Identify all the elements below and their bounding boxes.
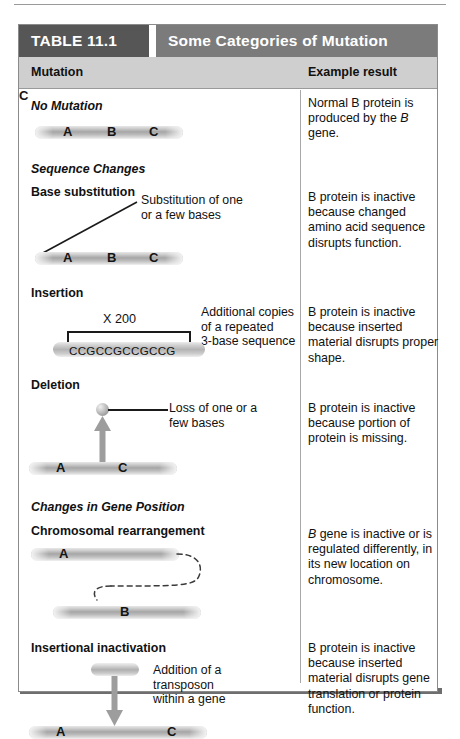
title-divider [149, 25, 156, 57]
gene-bar-top [31, 548, 179, 561]
rearrangement-dashed-path [169, 546, 249, 612]
annotation-substitution-line1: Substitution of one [141, 193, 291, 208]
gene-label-b: B [107, 124, 116, 139]
repeat-span-bracket [67, 331, 191, 342]
gene-label-a: A [59, 546, 68, 561]
result-line-1: Normal B protein is [308, 96, 413, 110]
annotation-transposon: Addition of a transposon within a gene [153, 663, 293, 707]
annotation-transposon-line3: within a gene [153, 692, 293, 707]
column-header-mutation: Mutation [31, 65, 83, 79]
subheading-insertional-inactivation: Insertional inactivation [31, 641, 166, 655]
repeat-multiplier-label: X 200 [103, 312, 136, 326]
gene-label-b: B [120, 604, 129, 619]
mutation-table-card: TABLE 11.1 Some Categories of Mutation M… [18, 24, 438, 692]
result-line-2: produced by the [308, 111, 400, 125]
gene-label-a: A [56, 460, 65, 475]
gene-label-c: C [149, 124, 158, 139]
gene-label-b: B [107, 250, 116, 265]
section-no-mutation: No Mutation [31, 99, 103, 113]
page-top-rule [14, 4, 446, 5]
gene-label-c: C [149, 250, 158, 265]
gene-label-c: C [19, 88, 28, 103]
result-insertional-inactivation: B protein is inactive because inserted m… [308, 641, 439, 717]
transposon-capsule [91, 663, 139, 676]
result-base-substitution: B protein is inactive because changed am… [308, 190, 439, 251]
deletion-arrow-icon [91, 416, 115, 462]
gene-label-a: A [56, 724, 65, 739]
result-insertion: B protein is inactive because inserted m… [308, 305, 439, 366]
result-gene-italic: B [400, 111, 408, 125]
annotation-insertion-line2: of a repeated [201, 320, 311, 335]
annotation-transposon-line2: transposon [153, 678, 293, 693]
mutation-column: No Mutation A B C Sequence Changes Base … [19, 90, 300, 691]
annotation-substitution-line2: or a few bases [141, 208, 291, 223]
annotation-deletion-line2: few bases [169, 416, 299, 431]
annotation-transposon-line1: Addition of a [153, 663, 293, 678]
subheading-chromosomal-rearrangement: Chromosomal rearrangement [31, 524, 205, 538]
gene-label-a: A [63, 124, 72, 139]
result-text: gene is inactive or is regulated differe… [308, 527, 432, 587]
result-chromosomal-rearrangement: B gene is inactive or is regulated diffe… [308, 527, 439, 588]
table-number-label: TABLE 11.1 [19, 25, 149, 57]
gene-label-a: A [63, 250, 72, 265]
gene-label-c: C [167, 724, 176, 739]
annotation-insertion: Additional copies of a repeated 3-base s… [201, 305, 311, 349]
gene-bar [29, 462, 177, 475]
annotation-deletion: Loss of one or a few bases [169, 401, 299, 430]
result-line-3: gene. [308, 126, 339, 140]
column-divider [300, 90, 301, 683]
annotation-insertion-line1: Additional copies [201, 305, 311, 320]
annotation-substitution: Substitution of one or a few bases [141, 193, 291, 222]
column-header-example-result: Example result [308, 65, 397, 79]
section-sequence-changes: Sequence Changes [31, 162, 145, 176]
table-title-bar: TABLE 11.1 Some Categories of Mutation [19, 25, 437, 57]
table-column-header-row: Mutation Example result [19, 57, 437, 89]
section-changes-in-gene-position: Changes in Gene Position [31, 500, 185, 514]
subheading-insertion: Insertion [31, 286, 83, 300]
annotation-insertion-line3: 3-base sequence [201, 334, 311, 349]
example-result-column: Normal B protein is produced by the B ge… [308, 90, 439, 691]
subheading-deletion: Deletion [31, 378, 80, 392]
substitution-leader-line [19, 196, 159, 258]
result-no-mutation: Normal B protein is produced by the B ge… [308, 96, 439, 142]
deletion-leader-line [108, 409, 168, 411]
result-deletion: B protein is inactive because portion of… [308, 401, 439, 447]
table-body: No Mutation A B C Sequence Changes Base … [19, 90, 437, 691]
annotation-deletion-line1: Loss of one or a [169, 401, 299, 416]
repeat-sequence-text: CCGCCGCCGCCG [69, 344, 176, 357]
table-title: Some Categories of Mutation [156, 25, 437, 57]
gene-label-c: C [118, 460, 127, 475]
transposon-arrow-icon [103, 676, 127, 726]
